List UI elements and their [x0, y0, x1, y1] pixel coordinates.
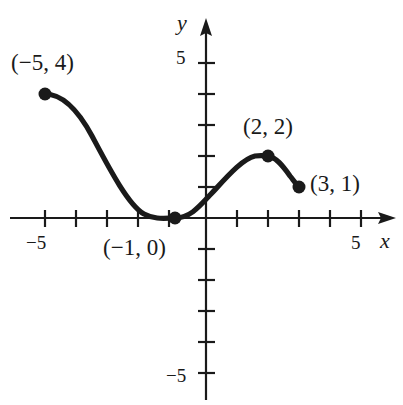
function-curve — [45, 94, 299, 218]
point-label-minus1-0: (−1, 0) — [103, 236, 166, 259]
x-tick-label-minus5: −5 — [26, 233, 46, 252]
y-tick-label-5: 5 — [176, 48, 186, 67]
data-point-marker — [262, 150, 275, 163]
point-label-2-2: (2, 2) — [243, 115, 293, 138]
point-label-minus5-4: (−5, 4) — [11, 51, 74, 74]
graph-figure: (−5, 4) (2, 2) (3, 1) (−1, 0) −5 5 5 −5 … — [0, 0, 403, 405]
data-point-marker — [293, 181, 306, 194]
data-point-marker — [169, 212, 182, 225]
y-axis-name: y — [177, 12, 187, 34]
x-axis-name: x — [380, 230, 390, 252]
x-tick-label-5: 5 — [351, 233, 361, 252]
point-label-3-1: (3, 1) — [310, 172, 360, 195]
data-point-markers — [39, 88, 306, 225]
y-tick-label-minus5: −5 — [166, 366, 186, 385]
data-point-marker — [39, 88, 52, 101]
